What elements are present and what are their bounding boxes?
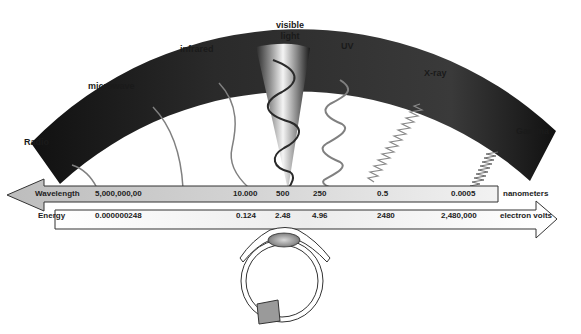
energy-label: Energy <box>38 211 65 220</box>
energy-value-radio: 0.000000248 <box>95 211 142 220</box>
gamma-wave <box>470 152 498 188</box>
band-label-visible-line1: visible <box>276 20 304 31</box>
wavelength-value-visible: 500 <box>276 189 289 198</box>
diagram-graphics <box>0 0 581 334</box>
energy-value-infrared: 0.124 <box>236 211 256 220</box>
wavelength-unit: nanometers <box>503 189 548 198</box>
band-label-xray: X-ray <box>424 68 447 79</box>
wavelength-value-infrared: 10.000 <box>233 189 257 198</box>
eye-illustration <box>240 228 330 325</box>
band-label-gamma: Gamma <box>516 126 549 137</box>
wavelength-label: Wavelength <box>35 189 80 198</box>
band-label-visible-line2: light <box>276 31 304 42</box>
em-spectrum-diagram: Radio microwave infrared visible light U… <box>0 0 581 334</box>
wavelength-value-radio: 5,000,000,00 <box>95 189 142 198</box>
energy-value-uv: 4.96 <box>312 211 328 220</box>
band-label-radio: Radio <box>24 137 49 148</box>
xray-wave <box>368 104 422 182</box>
band-label-uv: UV <box>341 41 354 52</box>
energy-value-visible: 2.48 <box>275 211 291 220</box>
energy-unit: electron volts <box>500 211 552 220</box>
visible-light-cone <box>256 44 310 190</box>
energy-value-xray: 2480 <box>377 211 395 220</box>
band-label-infrared: infrared <box>180 44 214 55</box>
wavelength-value-gamma: 0.0005 <box>451 189 475 198</box>
wavelength-value-uv: 250 <box>313 189 326 198</box>
energy-value-gamma: 2,480,000 <box>441 211 477 220</box>
band-label-visible: visible light <box>276 20 304 42</box>
band-label-microwave: microwave <box>88 81 135 92</box>
uv-wave <box>323 80 349 188</box>
wavelength-value-xray: 0.5 <box>377 189 388 198</box>
